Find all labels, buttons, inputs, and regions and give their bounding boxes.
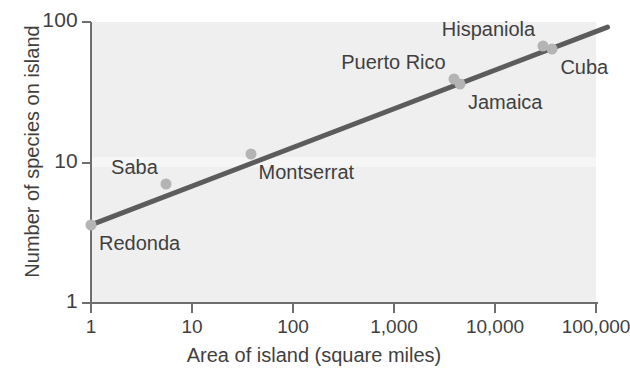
y-tick-mark <box>82 162 91 164</box>
x-tick-label: 100 <box>277 316 309 338</box>
data-point-label: Hispaniola <box>442 17 535 40</box>
x-tick-mark <box>595 304 597 313</box>
data-point-label: Montserrat <box>259 160 355 183</box>
y-tick-label: 100 <box>42 8 78 32</box>
x-tick-label: 1,000 <box>370 316 418 338</box>
data-point <box>547 44 558 55</box>
y-tick-mark <box>82 21 91 23</box>
x-tick-mark <box>191 304 193 313</box>
data-point-label: Saba <box>111 156 158 179</box>
x-tick-label: 100,000 <box>562 316 630 338</box>
y-tick-label: 1 <box>66 289 78 313</box>
y-axis-title: Number of species on island <box>21 7 44 297</box>
data-point <box>86 219 97 230</box>
data-point <box>245 148 256 159</box>
x-tick-mark <box>292 304 294 313</box>
data-point-label: Cuba <box>560 56 608 79</box>
x-tick-mark <box>90 304 92 313</box>
x-axis-line <box>90 302 598 304</box>
data-point <box>160 179 171 190</box>
data-point <box>454 79 465 90</box>
x-tick-label: 1 <box>86 316 97 338</box>
y-tick-label: 10 <box>54 149 78 173</box>
x-tick-mark <box>494 304 496 313</box>
x-tick-mark <box>393 304 395 313</box>
x-axis-title: Area of island (square miles) <box>0 344 628 367</box>
data-point-label: Redonda <box>99 231 180 254</box>
data-point-label: Jamaica <box>468 91 542 114</box>
data-point-label: Puerto Rico <box>341 51 446 74</box>
x-tick-label: 10 <box>181 316 202 338</box>
x-tick-label: 10,000 <box>466 316 524 338</box>
